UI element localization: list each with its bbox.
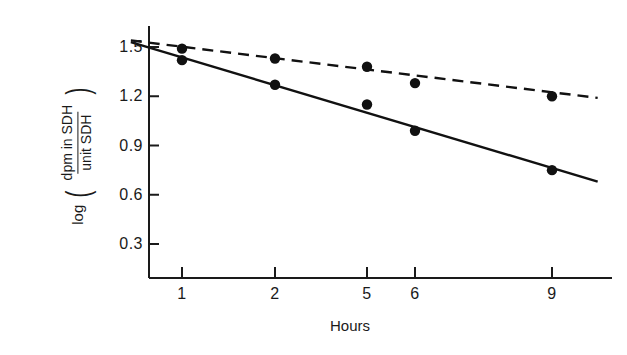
- left-paren: (: [64, 190, 93, 197]
- x-tick-label: 9: [547, 285, 556, 303]
- x-axis-ticks: [182, 267, 552, 278]
- fraction-numerator: dpm in SDH: [61, 102, 78, 183]
- x-tick-label: 2: [270, 285, 279, 303]
- y-axis-ticks: [149, 47, 159, 244]
- solid-line-series-point: [177, 55, 187, 65]
- chart-figure: 0.30.60.91.21.5 12569 Hours log ( dpm in…: [0, 0, 627, 355]
- dashed-line-series-point: [410, 78, 420, 88]
- y-axis-title-prefix: log: [70, 205, 87, 225]
- x-axis-title: Hours: [330, 317, 370, 334]
- x-tick-label: 1: [177, 285, 186, 303]
- dashed-line-series-point: [177, 43, 187, 53]
- y-axis-title-fraction: dpm in SDH unit SDH: [61, 102, 95, 183]
- solid-line-series-point: [362, 99, 372, 109]
- solid-line-series-point: [410, 126, 420, 136]
- dashed-line-series-point: [547, 91, 557, 101]
- series-data-points: [177, 43, 557, 175]
- x-tick-label: 6: [410, 285, 419, 303]
- solid-line-series-point: [547, 165, 557, 175]
- dashed-line-series-point: [270, 53, 280, 63]
- dashed-line-series-point: [362, 61, 372, 71]
- y-axis-title: log ( dpm in SDH unit SDH ): [18, 30, 138, 280]
- right-paren: ): [64, 88, 93, 95]
- solid-line-series-point: [270, 80, 280, 90]
- fraction-denominator: unit SDH: [78, 111, 96, 173]
- series-trend-lines: [131, 40, 598, 181]
- x-tick-label: 5: [362, 285, 371, 303]
